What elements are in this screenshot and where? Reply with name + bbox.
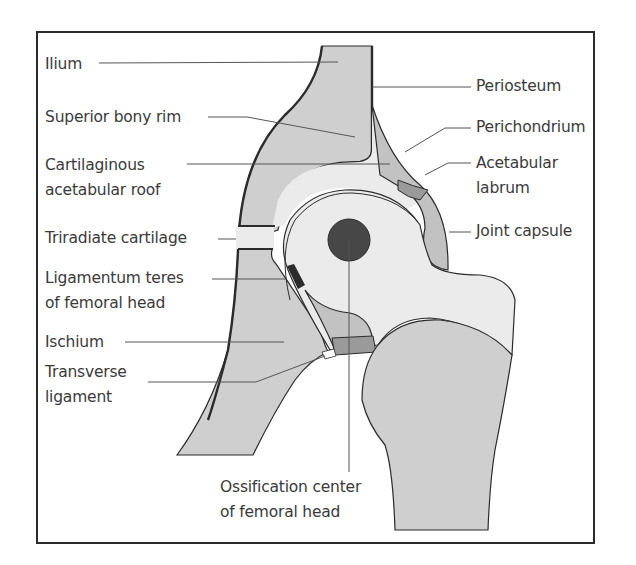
- label-periosteum: Periosteum: [476, 74, 561, 99]
- label-ossification-center-1: Ossification center: [220, 475, 361, 500]
- label-ilium: Ilium: [45, 52, 82, 77]
- label-ligamentum-teres-2: of femoral head: [45, 291, 165, 316]
- label-acetabular-labrum-1: Acetabular: [476, 151, 558, 176]
- label-cartilaginous-acetabular-roof-2: acetabular roof: [45, 178, 160, 203]
- label-perichondrium: Perichondrium: [476, 115, 586, 140]
- transverse-ligament-band: [332, 336, 376, 355]
- label-ossification-center-2: of femoral head: [220, 500, 340, 525]
- label-ischium: Ischium: [45, 330, 104, 355]
- label-triradiate-cartilage: Triradiate cartilage: [45, 226, 187, 251]
- label-acetabular-labrum-2: labrum: [476, 176, 530, 201]
- label-cartilaginous-acetabular-roof-1: Cartilaginous: [45, 153, 145, 178]
- triradiate-cartilage: [236, 226, 274, 249]
- label-transverse-ligament-1: Transverse: [45, 360, 127, 385]
- label-transverse-ligament-2: ligament: [45, 385, 112, 410]
- label-superior-bony-rim: Superior bony rim: [45, 105, 181, 130]
- label-joint-capsule: Joint capsule: [476, 219, 572, 244]
- label-ligamentum-teres-1: Ligamentum teres: [45, 266, 184, 291]
